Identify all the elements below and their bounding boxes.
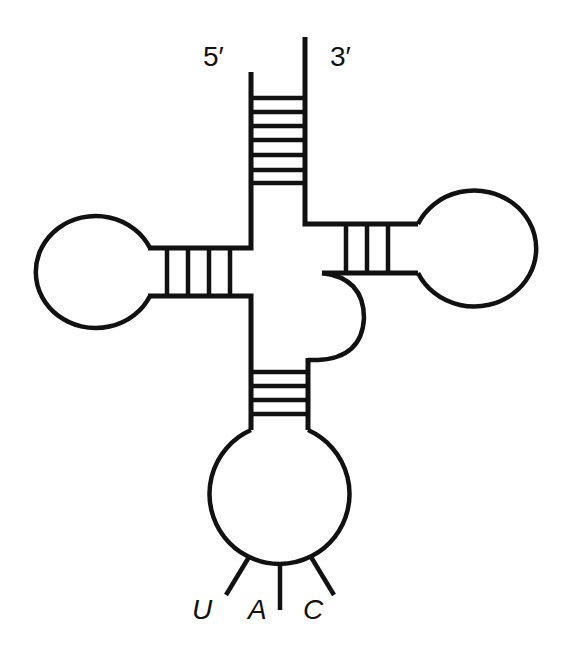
trna-cloverleaf-diagram: 5′ 3′ bbox=[0, 0, 568, 648]
acceptor-stem bbox=[148, 37, 418, 248]
anticodon: U A C bbox=[192, 557, 334, 625]
three-prime-label: 3′ bbox=[330, 41, 351, 72]
anticodon-base-u: U bbox=[192, 594, 213, 625]
anticodon-base-tick-c bbox=[311, 557, 334, 595]
d-arm-bottom-strand bbox=[148, 296, 251, 430]
t-loop bbox=[418, 190, 536, 306]
anticodon-base-c: C bbox=[303, 594, 324, 625]
three-prime-strand bbox=[305, 37, 418, 224]
anticodon-arm bbox=[210, 358, 350, 564]
anticodon-base-a: A bbox=[246, 594, 267, 625]
d-loop bbox=[36, 216, 150, 328]
five-prime-strand bbox=[148, 72, 251, 248]
five-prime-label: 5′ bbox=[203, 41, 224, 72]
anticodon-base-tick-u bbox=[226, 557, 249, 595]
variable-loop bbox=[308, 273, 364, 360]
anticodon-loop bbox=[210, 430, 350, 564]
